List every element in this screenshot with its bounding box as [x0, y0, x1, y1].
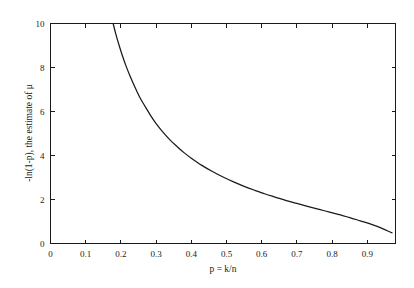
x-tick-label: 0.3 — [150, 249, 162, 259]
x-axis-label: p = k/n — [210, 264, 237, 274]
x-tick-label: 0.5 — [221, 249, 233, 259]
x-tick-label: 0.4 — [186, 249, 198, 259]
y-axis-label: -ln(1-p), the estimate of μ — [24, 84, 35, 182]
y-tick-label: 6 — [40, 107, 45, 117]
y-tick-label: 4 — [40, 151, 45, 161]
x-tick-label: 0 — [48, 249, 53, 259]
line-chart: 00.10.20.30.40.50.60.70.80.9 0246810 p =… — [0, 0, 414, 288]
y-tick-label: 8 — [40, 63, 45, 73]
y-tick-label: 10 — [36, 19, 46, 29]
x-tick-label: 0.2 — [115, 249, 126, 259]
chart-background — [0, 0, 414, 288]
figure-container: 00.10.20.30.40.50.60.70.80.9 0246810 p =… — [0, 0, 414, 288]
x-tick-label: 0.1 — [80, 249, 91, 259]
y-tick-label: 2 — [40, 195, 45, 205]
x-tick-label: 0.9 — [362, 249, 374, 259]
y-tick-label: 0 — [40, 239, 45, 249]
x-tick-label: 0.7 — [291, 249, 303, 259]
x-tick-label: 0.6 — [256, 249, 268, 259]
x-tick-label: 0.8 — [327, 249, 339, 259]
